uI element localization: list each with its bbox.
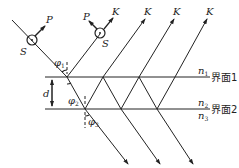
label-n1: n1 — [198, 65, 208, 77]
polarization-dot-1 — [31, 39, 33, 41]
reflected-ray-1 — [67, 34, 100, 77]
label-n2: n2 — [198, 97, 208, 109]
transmitted-ray-3 — [157, 109, 193, 164]
label-k4: K — [205, 6, 214, 17]
label-k3: K — [172, 6, 181, 17]
transmitted-ray-2 — [121, 109, 160, 164]
label-p2: P — [82, 11, 90, 22]
label-interface2: 界面2 — [211, 104, 237, 115]
k-ray-2 — [103, 19, 145, 77]
label-phi2: φ2 — [68, 95, 79, 107]
polarization-dot-2 — [99, 32, 101, 34]
label-interface1: 界面1 — [211, 72, 237, 83]
label-s2: S — [102, 38, 109, 49]
k-ray-3 — [139, 19, 174, 77]
angle-arc-phi1 — [62, 70, 67, 72]
label-phi1: φ1 — [54, 57, 65, 69]
k-arrow-1 — [104, 18, 113, 29]
label-d: d — [43, 88, 49, 99]
film-zigzag-ray — [67, 77, 175, 109]
label-n3: n3 — [198, 110, 208, 122]
p-arrow-1 — [35, 26, 45, 36]
angle-arc-phi2 — [67, 83, 71, 84]
label-phi3: φ3 — [88, 116, 99, 128]
thin-film-diagram: P S P S K K K K φ1 φ2 φ3 d n1 n2 n3 界面1 … — [0, 0, 239, 168]
p-arrow-2 — [89, 21, 97, 29]
label-k2: K — [143, 6, 152, 17]
label-s1: S — [20, 46, 27, 57]
label-k1: K — [111, 6, 120, 17]
label-p1: P — [45, 14, 53, 25]
